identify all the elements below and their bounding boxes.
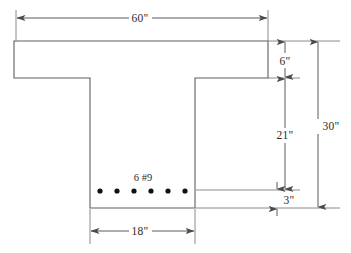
dimension-web-width: 18" bbox=[91, 225, 194, 237]
rebar-dot bbox=[148, 188, 153, 193]
dimension-cover: 3" bbox=[277, 182, 294, 216]
t-beam-cross-section-drawing: 60" 6" 21" 3" 30" 18 bbox=[0, 0, 351, 253]
dimension-web-depth: 21" bbox=[277, 79, 294, 189]
dimension-label-web-depth: 21" bbox=[277, 129, 294, 141]
dimension-label-web-width: 18" bbox=[132, 225, 149, 237]
rebar-dot bbox=[114, 188, 119, 193]
dimension-total-depth: 30" bbox=[318, 42, 339, 207]
rebar-dot bbox=[131, 188, 136, 193]
dimension-label-flange-thickness: 6" bbox=[280, 55, 291, 67]
rebar-group bbox=[97, 188, 187, 193]
rebar-dot bbox=[165, 188, 170, 193]
dimension-label-total-depth: 30" bbox=[323, 120, 340, 132]
dimension-label-flange-width: 60" bbox=[132, 12, 149, 24]
dimension-flange-thickness: 6" bbox=[280, 42, 291, 77]
rebar-dot bbox=[182, 188, 187, 193]
dimension-label-cover: 3" bbox=[284, 194, 295, 206]
rebar-dot bbox=[97, 188, 102, 193]
rebar-label: 6 #9 bbox=[134, 172, 152, 183]
dimension-flange-width: 60" bbox=[17, 12, 267, 24]
beam-drawing-canvas: 60" 6" 21" 3" 30" 18 bbox=[0, 0, 351, 253]
